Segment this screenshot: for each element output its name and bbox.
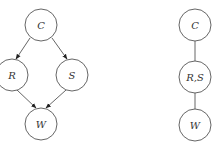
- edge-c-to-s: [52, 38, 67, 59]
- node-rs: R,S: [179, 61, 211, 93]
- node-w-right-label: W: [190, 120, 201, 131]
- junction-tree: C R,S W: [179, 9, 211, 141]
- edge-r-to-w: [17, 90, 36, 108]
- node-w-right: W: [179, 109, 211, 141]
- node-rs-label: R,S: [185, 72, 204, 83]
- bayesian-network: C R S W: [0, 9, 88, 140]
- edge-s-to-w: [46, 90, 66, 108]
- node-s: S: [56, 59, 88, 91]
- diagram-canvas: C R S W C R,S W: [0, 0, 214, 144]
- node-c-right: C: [179, 9, 211, 41]
- node-w-label: W: [36, 119, 47, 130]
- node-w: W: [25, 108, 57, 140]
- node-s-label: S: [69, 70, 76, 81]
- edge-c-to-r: [16, 38, 30, 59]
- node-c-right-label: C: [191, 20, 199, 31]
- node-c-label: C: [37, 20, 45, 31]
- node-r: R: [0, 59, 28, 91]
- node-r-label: R: [7, 70, 16, 81]
- node-c: C: [25, 9, 57, 41]
